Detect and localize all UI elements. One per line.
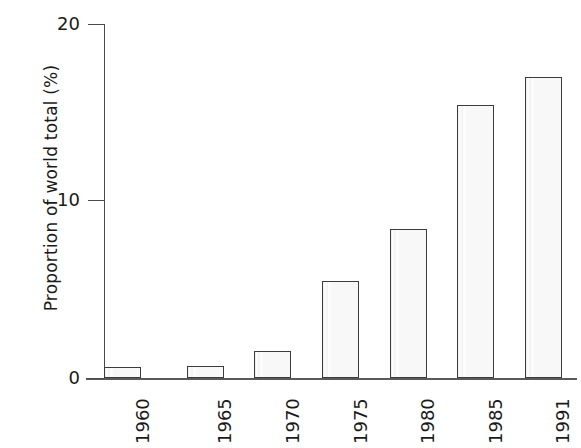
y-tick-label-20: 20 <box>34 15 80 33</box>
y-tick-mark-0 <box>88 378 104 379</box>
x-tick-label-1965: 1965 <box>215 386 235 444</box>
x-tick-label-1991: 1991 <box>553 386 573 444</box>
x-tick-label-1960: 1960 <box>133 386 153 444</box>
bar-1991 <box>525 77 562 378</box>
y-axis-line <box>104 24 105 379</box>
x-axis-line <box>86 378 577 380</box>
y-tick-mark-20 <box>88 24 104 25</box>
bar-1975 <box>322 281 359 378</box>
x-tick-label-1985: 1985 <box>486 386 506 444</box>
bar-chart-figure: Proportion of world total (%) 0 10 20 19… <box>0 0 581 448</box>
y-tick-label-10: 10 <box>34 191 80 209</box>
bar-1965 <box>187 366 224 378</box>
bar-1970 <box>254 351 291 378</box>
y-tick-mark-10 <box>88 200 104 201</box>
bar-1980 <box>390 229 427 378</box>
x-tick-label-1975: 1975 <box>351 386 371 444</box>
x-tick-label-1980: 1980 <box>418 386 438 444</box>
bar-1985 <box>457 105 494 378</box>
y-tick-label-0: 0 <box>34 369 80 387</box>
x-tick-label-1970: 1970 <box>283 386 303 444</box>
bar-1960 <box>104 367 141 378</box>
